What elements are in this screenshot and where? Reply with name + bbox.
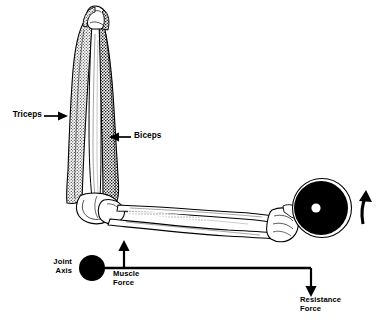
biceps-label: Biceps	[134, 131, 161, 140]
triceps-label: Triceps	[0, 110, 42, 119]
upper-arm-group	[67, 6, 119, 203]
ulna-bone	[108, 219, 275, 239]
biceps-muscle	[99, 26, 119, 201]
humerus-bone	[89, 24, 101, 198]
figure-canvas: Triceps Biceps Joint Axis Muscle Force R…	[0, 0, 379, 320]
resistance-force-label: Resistance Force	[300, 296, 341, 313]
rotation-arrow-icon	[359, 190, 372, 224]
weight-plate-hub	[311, 203, 320, 212]
forearm-group	[108, 205, 277, 239]
joint-axis-label: Joint Axis	[18, 258, 72, 275]
muscle-force-arrowhead	[118, 240, 129, 251]
weight-plate	[293, 179, 352, 238]
weight-plate-body	[294, 181, 348, 235]
muscle-force-label: Muscle Force	[113, 270, 139, 287]
triceps-leader-arrow	[44, 111, 68, 120]
